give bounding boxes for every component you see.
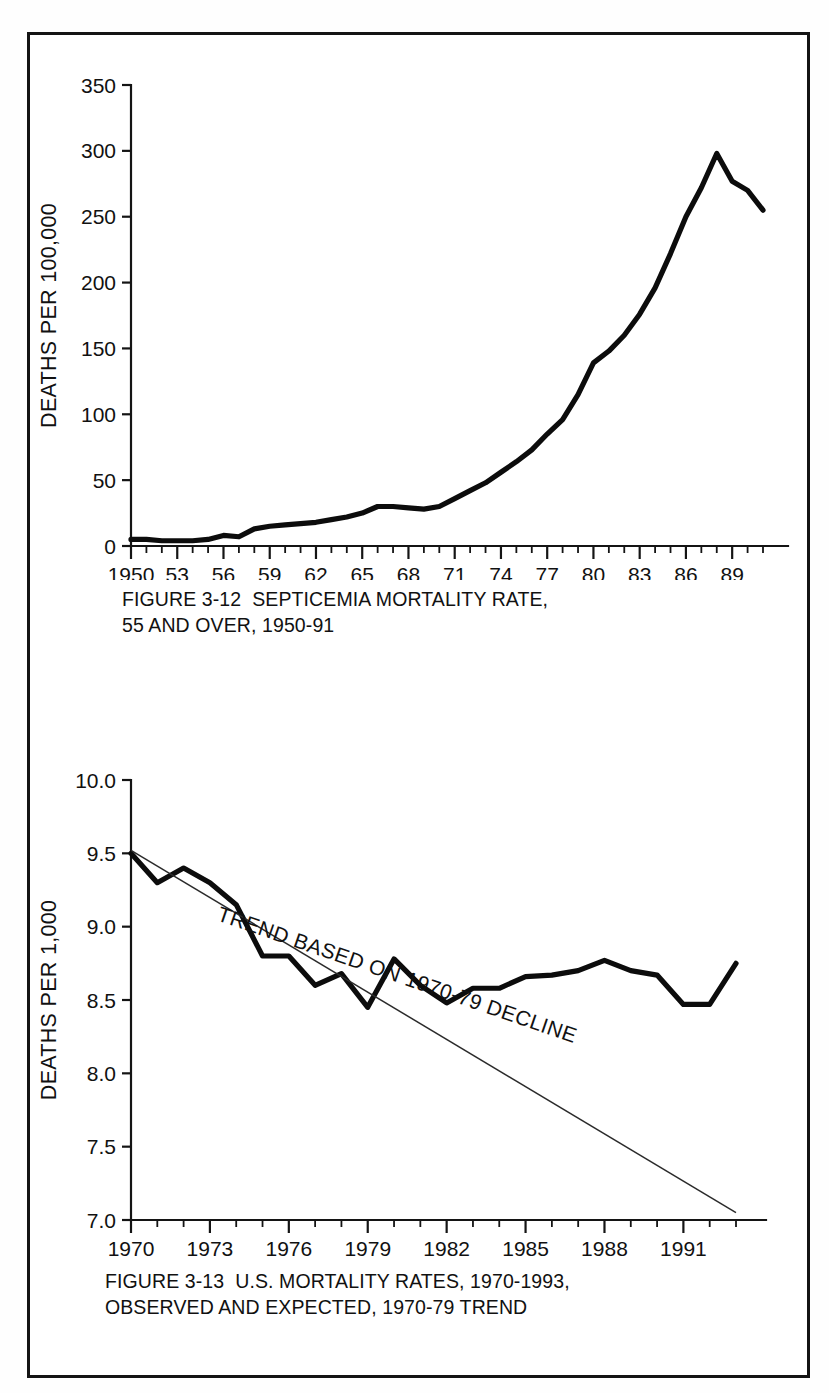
figure-3-13-block: 7.07.58.08.59.09.510.0197019731976197919…: [30, 675, 807, 1375]
x-tick-label: 56: [212, 563, 235, 580]
y-tick-label: 9.0: [87, 915, 116, 938]
x-tick-label: 59: [258, 563, 281, 580]
y-tick-label: 150: [81, 337, 116, 360]
x-tick-label: 80: [582, 563, 605, 580]
figure-frame-border: 0501001502002503003501950535659626568717…: [27, 32, 810, 1378]
x-tick-label: 1973: [187, 1237, 234, 1260]
x-tick-label: 1991: [660, 1237, 707, 1260]
y-tick-label: 8.0: [87, 1062, 116, 1085]
figure-3-12-block: 0501001502002503003501950535659626568717…: [30, 35, 807, 665]
y-tick-label: 7.0: [87, 1209, 116, 1232]
y-tick-label: 350: [81, 74, 116, 97]
us-mortality-rates-chart: 7.07.58.08.59.09.510.0197019731976197919…: [30, 675, 813, 1260]
y-tick-label: 100: [81, 403, 116, 426]
y-axis-title: DEATHS PER 100,000: [37, 203, 61, 428]
y-tick-label: 250: [81, 205, 116, 228]
x-tick-label: 1988: [581, 1237, 628, 1260]
x-tick-label: 1970: [108, 1237, 155, 1260]
figure-3-12-caption-line-1: FIGURE 3-12 SEPTICEMIA MORTALITY RATE,: [122, 588, 548, 610]
x-tick-label: 1950: [108, 563, 155, 580]
x-tick-label: 1979: [344, 1237, 391, 1260]
x-tick-label: 62: [304, 563, 327, 580]
figure-3-12-caption: FIGURE 3-12 SEPTICEMIA MORTALITY RATE, 5…: [122, 587, 548, 639]
x-tick-label: 83: [628, 563, 651, 580]
y-tick-label: 9.5: [87, 842, 116, 865]
x-tick-label: 68: [397, 563, 420, 580]
figure-3-12-caption-line-2: 55 AND OVER, 1950-91: [122, 614, 334, 636]
x-tick-label: 1976: [265, 1237, 312, 1260]
y-tick-label: 200: [81, 271, 116, 294]
x-tick-label: 86: [674, 563, 697, 580]
y-axis-title: DEATHS PER 1,000: [37, 900, 61, 1100]
document-page: 0501001502002503003501950535659626568717…: [0, 0, 829, 1393]
figure-3-13-caption: FIGURE 3-13 U.S. MORTALITY RATES, 1970-1…: [105, 1269, 570, 1321]
data-line: [131, 153, 763, 540]
y-tick-label: 10.0: [75, 769, 116, 792]
x-tick-label: 71: [443, 563, 466, 580]
x-tick-label: 65: [351, 563, 374, 580]
y-tick-label: 300: [81, 139, 116, 162]
figure-3-13-caption-line-2: OBSERVED AND EXPECTED, 1970-79 TREND: [105, 1296, 527, 1318]
x-tick-label: 77: [536, 563, 559, 580]
x-tick-label: 1985: [502, 1237, 549, 1260]
x-tick-label: 74: [489, 563, 513, 580]
y-tick-label: 0: [104, 535, 116, 558]
x-tick-label: 53: [166, 563, 189, 580]
figure-3-13-caption-line-1: FIGURE 3-13 U.S. MORTALITY RATES, 1970-1…: [105, 1270, 570, 1292]
x-tick-label: 1982: [423, 1237, 470, 1260]
x-tick-label: 89: [720, 563, 743, 580]
y-tick-label: 7.5: [87, 1135, 116, 1158]
septicemia-mortality-chart: 0501001502002503003501950535659626568717…: [30, 35, 813, 580]
y-tick-label: 50: [93, 469, 116, 492]
y-tick-label: 8.5: [87, 989, 116, 1012]
